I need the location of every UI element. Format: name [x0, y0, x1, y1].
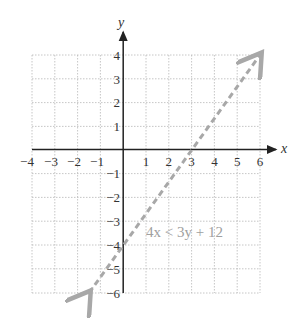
svg-text:2: 2 [166, 154, 173, 169]
y-tick-labels: 4 3 2 1 −1 −2 −3 −4 −5 −6 [106, 48, 120, 301]
y-axis-label: y [116, 15, 125, 30]
svg-text:1: 1 [143, 154, 150, 169]
svg-text:−2: −2 [67, 154, 81, 169]
svg-text:2: 2 [114, 95, 121, 110]
svg-text:6: 6 [257, 154, 264, 169]
svg-text:−4: −4 [20, 154, 34, 169]
svg-text:3: 3 [188, 154, 195, 169]
coordinate-plane: x y −4 −3 −2 −1 1 2 3 4 5 6 4 3 2 1 −1 −… [0, 0, 305, 321]
svg-text:4: 4 [211, 154, 218, 169]
svg-text:−1: −1 [90, 154, 104, 169]
svg-text:5: 5 [234, 154, 241, 169]
x-tick-labels: −4 −3 −2 −1 1 2 3 4 5 6 [20, 154, 264, 169]
svg-text:1: 1 [114, 119, 121, 134]
svg-text:−2: −2 [106, 190, 120, 205]
svg-text:−6: −6 [106, 286, 120, 301]
x-axis-label: x [280, 141, 288, 156]
svg-text:3: 3 [114, 72, 121, 87]
grid [32, 55, 260, 293]
svg-text:−3: −3 [44, 154, 58, 169]
svg-text:−3: −3 [106, 214, 120, 229]
inequality-label: 4x < 3y + 12 [146, 224, 223, 240]
svg-text:4: 4 [114, 48, 121, 63]
svg-text:−1: −1 [106, 166, 120, 181]
